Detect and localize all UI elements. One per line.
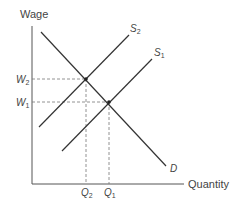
demand-curve	[41, 32, 166, 166]
supply-curve-s2	[39, 35, 129, 127]
x-axis-label: Quantity	[188, 178, 229, 190]
q2-label: Q2	[81, 187, 93, 199]
y-axis-label: Wage	[20, 8, 48, 20]
w1-label: W1	[16, 97, 29, 109]
q1-label: Q1	[104, 187, 116, 199]
s1-label: S1	[154, 47, 165, 59]
labor-market-diagram: Wage Quantity S2 S1 D W2 W1 Q2 Q1	[0, 0, 236, 201]
d-label: D	[170, 163, 177, 174]
equilibrium-point-1	[107, 100, 111, 104]
w2-label: W2	[16, 74, 29, 86]
s2-label: S2	[130, 23, 141, 35]
equilibrium-point-2	[84, 77, 88, 81]
